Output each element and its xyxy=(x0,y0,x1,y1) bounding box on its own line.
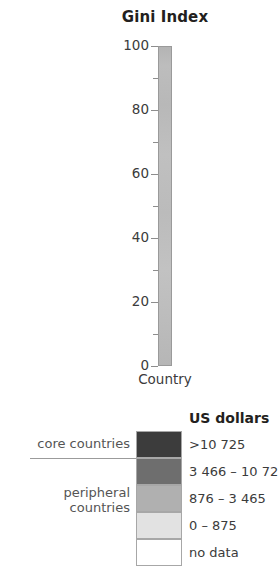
axis-tick xyxy=(153,270,158,271)
axis-tick-label: 40 xyxy=(132,231,149,245)
legend-value-label: 3 466 – 10 725 xyxy=(189,458,278,485)
axis-tick xyxy=(153,142,158,143)
legend-swatch xyxy=(136,539,182,566)
axis-tick xyxy=(153,334,158,335)
legend-value-label: no data xyxy=(189,539,239,566)
axis-tick xyxy=(151,174,158,175)
axis-tick xyxy=(151,238,158,239)
legend-heading: US dollars xyxy=(189,410,269,426)
legend-group-divider xyxy=(30,458,137,459)
legend-group-peripheral-countries: peripheral countries xyxy=(10,486,130,515)
axis-tick-label: 20 xyxy=(132,295,149,309)
axis-tick xyxy=(151,46,158,47)
page-title: Gini Index xyxy=(0,8,278,26)
axis-tick xyxy=(151,366,158,367)
axis-tick xyxy=(153,78,158,79)
legend-value-label: 876 – 3 465 xyxy=(189,485,266,512)
legend-group-core-countries: core countries xyxy=(10,437,130,452)
axis-tick xyxy=(153,206,158,207)
axis-tick xyxy=(151,110,158,111)
gini-title-text: Gini Index xyxy=(122,8,208,26)
legend-swatch xyxy=(136,431,182,458)
axis-tick-label: 60 xyxy=(132,167,149,181)
legend-swatch xyxy=(136,512,182,539)
gini-index-panel: Gini Index 100806040200 Country xyxy=(0,0,278,400)
legend-value-label: 0 – 875 xyxy=(189,512,237,539)
legend-panel: US dollars core countries peripheral cou… xyxy=(0,400,278,572)
gini-colorbar-gradient xyxy=(158,46,172,366)
axis-tick-label: 100 xyxy=(123,39,149,53)
gini-colorbar: 100806040200 xyxy=(158,46,172,366)
legend-value-label: >10 725 xyxy=(189,431,245,458)
legend-swatch xyxy=(136,458,182,485)
x-axis-label: Country xyxy=(0,371,278,387)
x-axis-label-text: Country xyxy=(138,371,192,387)
legend-swatch xyxy=(136,485,182,512)
axis-tick-label: 80 xyxy=(132,103,149,117)
axis-tick xyxy=(151,302,158,303)
